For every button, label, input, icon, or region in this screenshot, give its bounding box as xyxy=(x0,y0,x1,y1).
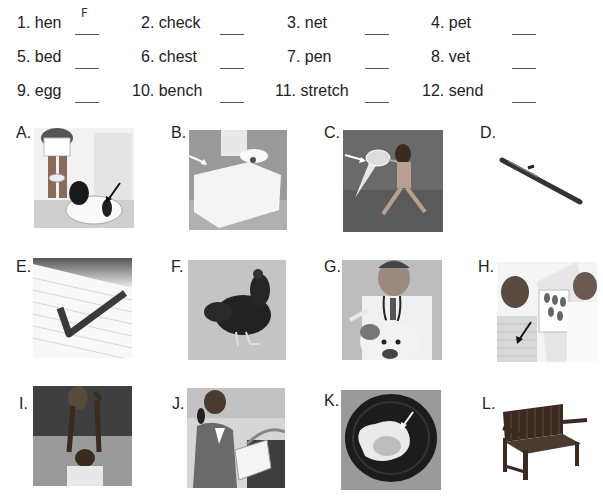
picture-e-check-mark[interactable] xyxy=(33,258,132,358)
word-item-12: 12. send xyxy=(422,80,483,102)
picture-label-j: J. xyxy=(172,395,184,413)
bench-illustration xyxy=(497,402,591,482)
picture-d-pen[interactable] xyxy=(498,150,588,210)
word-text: hen xyxy=(35,14,62,31)
word-row-2: 5. bed 6. chest 7. pen 8. vet xyxy=(0,46,603,70)
pen-illustration xyxy=(498,150,588,210)
picture-j-girl-sending-mail[interactable] xyxy=(187,388,285,488)
picture-i-child-stretch[interactable] xyxy=(33,386,132,486)
answer-blank-9[interactable] xyxy=(75,80,99,103)
picture-label-l: L. xyxy=(482,395,495,413)
word-text: stretch xyxy=(301,82,349,99)
word-text: pet xyxy=(449,14,471,31)
picture-g-vet[interactable] xyxy=(342,260,442,360)
word-item-2: 2. check xyxy=(141,12,201,34)
bed-illustration xyxy=(189,130,287,230)
word-number: 2. xyxy=(141,14,154,31)
word-number: 11. xyxy=(275,82,296,99)
word-item-8: 8. vet xyxy=(431,46,470,68)
send-mail-illustration xyxy=(187,388,285,488)
word-item-11: 11. stretch xyxy=(275,80,349,102)
word-number: 9. xyxy=(17,82,30,99)
picture-l-bench[interactable] xyxy=(497,402,591,482)
word-text: chest xyxy=(159,48,197,65)
answer-blank-3[interactable] xyxy=(365,12,389,35)
word-item-1: 1. hen xyxy=(17,12,62,34)
vet-illustration xyxy=(342,260,442,360)
picture-f-hen[interactable] xyxy=(188,260,286,360)
word-text: bench xyxy=(159,82,203,99)
chest-exam-illustration xyxy=(497,262,597,362)
answer-blank-4[interactable] xyxy=(512,12,536,35)
word-item-9: 9. egg xyxy=(17,80,62,102)
word-number: 7. xyxy=(287,48,300,65)
word-number: 10. xyxy=(132,82,154,99)
word-item-4: 4. pet xyxy=(431,12,471,34)
word-text: bed xyxy=(35,48,62,65)
picture-k-fried-egg[interactable] xyxy=(341,390,441,490)
picture-label-k: K. xyxy=(324,392,339,410)
picture-label-g: G. xyxy=(324,258,341,276)
word-text: send xyxy=(449,82,484,99)
picture-label-d: D. xyxy=(480,124,496,142)
word-text: check xyxy=(159,14,201,31)
answer-text: F xyxy=(81,6,88,20)
net-illustration xyxy=(343,130,443,232)
picture-a-girl-with-dog[interactable] xyxy=(34,128,134,228)
picture-label-f: F. xyxy=(171,258,183,276)
answer-blank-6[interactable] xyxy=(220,46,244,69)
word-number: 8. xyxy=(431,48,444,65)
answer-blank-2[interactable] xyxy=(220,12,244,35)
word-row-3: 9. egg 10. bench 11. stretch 12. send xyxy=(0,80,603,104)
word-text: vet xyxy=(449,48,470,65)
girl-dog-illustration xyxy=(34,128,134,228)
word-number: 12. xyxy=(422,82,444,99)
word-item-3: 3. net xyxy=(287,12,327,34)
word-number: 3. xyxy=(287,14,300,31)
hen-illustration xyxy=(188,260,286,360)
word-text: net xyxy=(305,14,327,31)
word-number: 4. xyxy=(431,14,444,31)
picture-label-c: C. xyxy=(324,124,340,142)
answer-blank-11[interactable] xyxy=(365,80,389,103)
answer-blank-10[interactable] xyxy=(220,80,244,103)
answer-blank-12[interactable] xyxy=(512,80,536,103)
word-item-5: 5. bed xyxy=(17,46,62,68)
answer-blank-5[interactable] xyxy=(75,46,99,69)
picture-label-a: A. xyxy=(16,124,31,142)
picture-h-doctor-chest[interactable] xyxy=(497,262,597,362)
picture-label-b: B. xyxy=(171,124,186,142)
answer-blank-7[interactable] xyxy=(365,46,389,69)
word-number: 5. xyxy=(17,48,30,65)
word-number: 1. xyxy=(17,14,30,31)
word-number: 6. xyxy=(141,48,154,65)
word-item-7: 7. pen xyxy=(287,46,332,68)
word-text: pen xyxy=(305,48,332,65)
word-item-10: 10. bench xyxy=(132,80,202,102)
word-item-6: 6. chest xyxy=(141,46,197,68)
picture-label-i: I. xyxy=(19,395,28,413)
answer-blank-1[interactable]: F xyxy=(75,12,99,35)
picture-b-bed[interactable] xyxy=(189,130,287,230)
stretch-illustration xyxy=(33,386,132,486)
picture-label-e: E. xyxy=(16,258,31,276)
picture-c-child-with-net[interactable] xyxy=(343,130,443,232)
answer-blank-8[interactable] xyxy=(512,46,536,69)
word-row-1: 1. hen F 2. check 3. net 4. pet xyxy=(0,12,603,36)
word-text: egg xyxy=(35,82,62,99)
picture-label-h: H. xyxy=(478,258,494,276)
check-mark-illustration xyxy=(33,258,132,358)
egg-illustration xyxy=(341,390,441,490)
